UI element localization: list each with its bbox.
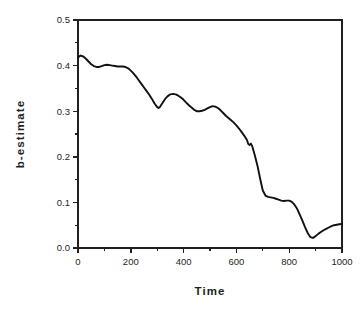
x-axis-title: Time bbox=[194, 285, 225, 297]
x-tick-label: 800 bbox=[281, 256, 297, 267]
data-series-line bbox=[78, 56, 342, 238]
chart-figure: 0.00.10.20.30.40.5 02004006008001000 b-e… bbox=[0, 0, 363, 310]
x-tick-label: 200 bbox=[123, 256, 139, 267]
line-chart: 0.00.10.20.30.40.5 02004006008001000 b-e… bbox=[0, 0, 363, 310]
x-tick-label: 1000 bbox=[331, 256, 352, 267]
y-tick-label: 0.1 bbox=[57, 197, 70, 208]
y-axis-title: b-estimate bbox=[14, 100, 26, 169]
y-tick-label: 0.4 bbox=[57, 60, 70, 71]
y-tick-label: 0.3 bbox=[57, 106, 70, 117]
y-tick-label: 0.2 bbox=[57, 151, 70, 162]
x-tick-label: 0 bbox=[75, 256, 80, 267]
y-axis-tick-labels: 0.00.10.20.30.40.5 bbox=[57, 14, 70, 253]
x-tick-label: 400 bbox=[176, 256, 192, 267]
axis-frame bbox=[78, 20, 342, 248]
y-tick-label: 0.5 bbox=[57, 14, 70, 25]
y-tick-label: 0.0 bbox=[57, 242, 70, 253]
x-tick-label: 600 bbox=[228, 256, 244, 267]
plot-frame bbox=[78, 20, 342, 248]
x-axis-tick-labels: 02004006008001000 bbox=[75, 256, 352, 267]
